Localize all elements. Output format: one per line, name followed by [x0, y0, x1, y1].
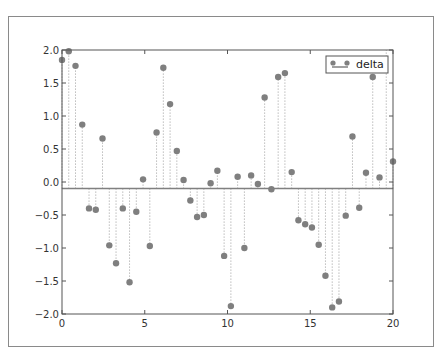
data-point — [86, 205, 92, 211]
data-point — [268, 186, 274, 192]
data-point — [376, 174, 382, 180]
data-markers — [59, 48, 396, 310]
data-point — [167, 101, 173, 107]
data-point — [295, 217, 301, 223]
data-point — [329, 304, 335, 310]
data-point — [248, 172, 254, 178]
data-point — [72, 63, 78, 69]
data-point — [234, 174, 240, 180]
y-tick-label: −1.0 — [35, 243, 59, 254]
data-point — [187, 197, 193, 203]
y-tick-label: 0.0 — [43, 177, 59, 188]
stem-lines — [62, 50, 393, 307]
axes-box — [62, 50, 393, 314]
data-point — [214, 168, 220, 174]
stem-chart: 051015202.01.51.00.50.0−0.5−1.0−1.5−2.0 … — [0, 0, 445, 359]
data-point — [99, 135, 105, 141]
data-point — [356, 205, 362, 211]
data-point — [363, 170, 369, 176]
data-point — [153, 129, 159, 135]
data-point — [120, 205, 126, 211]
data-point — [79, 121, 85, 127]
data-point — [126, 279, 132, 285]
x-tick-label: 5 — [142, 318, 148, 329]
data-point — [201, 212, 207, 218]
data-point — [113, 260, 119, 266]
data-point — [288, 169, 294, 175]
x-tick-label: 10 — [221, 318, 234, 329]
y-tick-label: 2.0 — [43, 45, 59, 56]
data-point — [228, 303, 234, 309]
legend-marker-icon — [344, 60, 349, 65]
legend-label: delta — [356, 58, 384, 71]
data-point — [349, 133, 355, 139]
data-point — [140, 176, 146, 182]
y-tick-label: −2.0 — [35, 309, 59, 320]
data-point — [93, 207, 99, 213]
y-tick-label: −0.5 — [35, 210, 59, 221]
data-point — [282, 70, 288, 76]
y-tick-label: −1.5 — [35, 276, 59, 287]
data-point — [180, 177, 186, 183]
data-point — [336, 298, 342, 304]
data-point — [106, 242, 112, 248]
data-point — [194, 214, 200, 220]
legend: delta — [326, 56, 388, 73]
x-tick-label: 20 — [387, 318, 400, 329]
axis-ticks: 051015202.01.51.00.50.0−0.5−1.0−1.5−2.0 — [35, 45, 400, 329]
y-tick-label: 0.5 — [43, 144, 59, 155]
data-point — [315, 242, 321, 248]
data-point — [275, 74, 281, 80]
x-tick-label: 0 — [59, 318, 65, 329]
data-point — [241, 245, 247, 251]
data-point — [322, 273, 328, 279]
data-point — [160, 65, 166, 71]
legend-marker-icon — [330, 60, 335, 65]
data-point — [302, 221, 308, 227]
data-point — [255, 181, 261, 187]
y-tick-label: 1.0 — [43, 111, 59, 122]
data-point — [343, 212, 349, 218]
x-tick-label: 15 — [304, 318, 317, 329]
data-point — [309, 224, 315, 230]
data-point — [133, 209, 139, 215]
data-point — [174, 148, 180, 154]
data-point — [221, 253, 227, 259]
data-point — [370, 74, 376, 80]
data-point — [66, 48, 72, 54]
data-point — [207, 180, 213, 186]
data-point — [147, 243, 153, 249]
y-tick-label: 1.5 — [43, 78, 59, 89]
data-point — [261, 94, 267, 100]
